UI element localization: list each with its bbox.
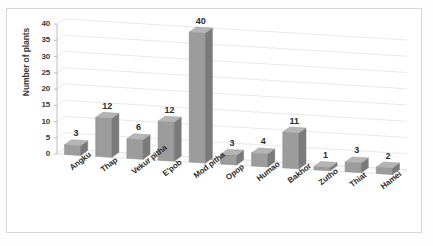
bar-value-label: 4 — [248, 136, 278, 146]
grid-connector — [57, 19, 64, 24]
bar-value-label: 3 — [342, 145, 372, 155]
bar-front-face — [96, 117, 112, 157]
bar-value-label: 6 — [123, 122, 153, 132]
y-tick-label: 35 — [30, 35, 50, 44]
bar-side-face — [112, 113, 119, 157]
bar-value-label: 2 — [373, 151, 403, 161]
y-tick-label: 30 — [30, 52, 50, 61]
bar[interactable] — [345, 157, 368, 173]
bar-value-label: 12 — [92, 101, 122, 111]
bar-value-label: 1 — [311, 150, 341, 160]
y-tick-label: 15 — [30, 100, 50, 109]
y-tick-label: 5 — [30, 133, 50, 142]
bar[interactable] — [283, 127, 306, 169]
chart-plot-area: Number of plants 05101520253035403Angku1… — [7, 9, 423, 234]
gridline — [64, 35, 407, 56]
gridline — [64, 19, 407, 40]
bar-front-face — [376, 167, 392, 174]
bar-value-label: 3 — [61, 128, 91, 138]
gridline — [64, 52, 407, 73]
bar-front-face — [252, 153, 268, 167]
grid-connector — [57, 100, 64, 105]
grid-connector — [57, 52, 64, 57]
grid-connector — [57, 117, 64, 122]
bar-value-label: 11 — [279, 116, 309, 126]
bar-front-face — [189, 32, 205, 163]
grid-connector — [57, 84, 64, 89]
bar-side-face — [174, 117, 181, 161]
y-tick-label: 40 — [30, 19, 50, 28]
bar-front-face — [64, 145, 80, 156]
bar-value-label: 12 — [155, 105, 185, 115]
chart-figure: Number of plants 05101520253035403Angku1… — [6, 8, 422, 233]
y-tick-label: 20 — [30, 84, 50, 93]
bar-front-face — [127, 139, 143, 159]
y-tick-label: 0 — [30, 149, 50, 158]
bar-value-label: 3 — [217, 138, 247, 148]
y-tick-label: 10 — [30, 117, 50, 126]
y-tick-label: 25 — [30, 68, 50, 77]
bar-front-face — [345, 162, 361, 173]
bar[interactable] — [189, 27, 212, 163]
gridline — [64, 68, 407, 89]
bar-side-face — [205, 28, 212, 163]
bar-value-label: 40 — [186, 16, 216, 26]
bar-front-face — [283, 132, 299, 169]
bar[interactable] — [96, 112, 119, 157]
grid-connector — [57, 68, 64, 73]
grid-connector — [57, 35, 64, 40]
chart-svg — [7, 9, 423, 234]
